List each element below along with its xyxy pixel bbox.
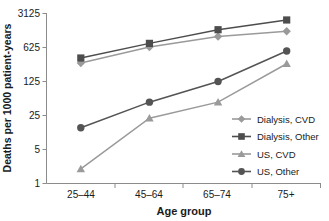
legend-item-dialysis-other[interactable]: Dialysis, Other [232,131,319,142]
series-dialysis-cvd [77,27,291,67]
x-tick-label-1: 45–64 [135,189,163,200]
data-point [283,16,290,23]
y-tick-label-1: 1 [34,178,40,189]
data-point [214,32,222,40]
x-tick-label-0: 25–44 [67,189,95,200]
data-point [146,40,153,47]
chart-container: 3125 625 125 25 5 1 25–44 45–64 65–74 75… [0,0,329,221]
diamond-marker-icon [238,115,246,123]
legend-label: US, Other [257,166,299,177]
legend-label: US, CVD [257,149,296,160]
y-axis-title: Deaths per 1000 patient-years [1,23,13,172]
data-point [283,47,290,54]
data-point [77,54,84,61]
chart-legend: Dialysis, CVDDialysis, OtherUS, CVDUS, O… [232,114,319,178]
legend-item-us-cvd[interactable]: US, CVD [232,149,296,160]
y-tick-label-25: 25 [29,110,41,121]
x-axis-title: Age group [157,205,212,217]
y-tick-label-3125: 3125 [18,8,41,19]
y-tick-label-125: 125 [23,76,40,87]
series-dialysis-other [77,16,290,61]
series-line [81,51,287,128]
x-tick-label-2: 65–74 [203,189,231,200]
data-point [282,60,290,68]
legend-item-dialysis-cvd[interactable]: Dialysis, CVD [232,114,315,125]
line-chart: 3125 625 125 25 5 1 25–44 45–64 65–74 75… [0,0,329,221]
legend-label: Dialysis, CVD [257,114,315,125]
data-point [214,26,221,33]
y-tick-label-5: 5 [34,144,40,155]
x-tick-label-3: 75+ [278,189,295,200]
square-marker-icon [238,133,245,140]
data-point [214,98,222,106]
data-point [146,98,153,105]
series-line [81,20,287,58]
legend-item-us-other[interactable]: US, Other [232,166,299,177]
circle-marker-icon [238,168,245,175]
legend-label: Dialysis, Other [257,131,319,142]
x-axis-ticks [115,184,321,189]
data-point [214,78,221,85]
data-point [282,27,290,35]
y-tick-label-625: 625 [23,42,40,53]
y-axis-ticks [43,14,47,184]
data-point [77,124,84,131]
